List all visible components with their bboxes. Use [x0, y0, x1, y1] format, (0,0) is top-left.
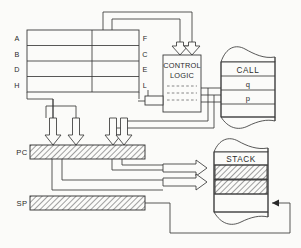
stack-memory-label: STACK [226, 155, 256, 164]
diagram-canvas: A B D H F C E L CONTROL LOGIC [0, 0, 301, 248]
control-logic-label-line1: CONTROL [163, 61, 201, 70]
register-label-e: E [142, 65, 147, 74]
arrow-into-pc-right2 [116, 118, 132, 145]
bus-pc-to-stack [52, 159, 163, 190]
register-label-f: F [143, 34, 148, 43]
control-logic-label-line2: LOGIC [170, 71, 194, 80]
program-counter-register [30, 145, 145, 159]
arrow-into-stack-lower [163, 174, 207, 190]
arrowhead-into-stack [272, 200, 279, 207]
control-logic-left-taps [138, 96, 163, 105]
register-label-h: H [14, 81, 20, 90]
arrow-into-control-logic [172, 42, 200, 55]
register-label-l: L [143, 81, 147, 90]
call-memory-cell-call: CALL [237, 66, 260, 75]
program-counter-label: PC [16, 148, 27, 157]
register-label-b: B [14, 50, 19, 59]
stack-memory-block [214, 139, 268, 225]
arrow-into-pc-right [105, 118, 121, 145]
call-memory-cell-p: p [246, 94, 251, 103]
arrow-into-pc-left2 [68, 118, 84, 145]
register-label-c: C [142, 50, 148, 59]
bus-control-to-call [201, 88, 221, 112]
arrow-into-stack-upper [163, 160, 207, 176]
register-label-d: D [14, 65, 20, 74]
stack-pointer-register [30, 196, 145, 210]
register-file-box [27, 30, 139, 92]
call-memory-cell-q: q [246, 80, 251, 89]
stack-pointer-label: SP [17, 199, 28, 208]
arrow-into-pc-left [45, 118, 61, 145]
register-label-a: A [14, 34, 19, 43]
